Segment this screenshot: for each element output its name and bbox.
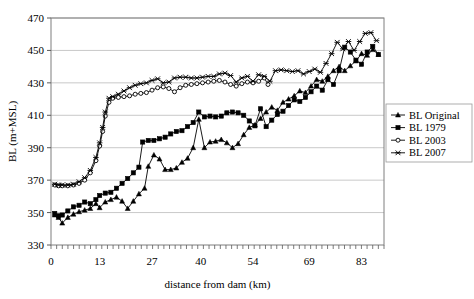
x-tick-label: 40 — [195, 255, 207, 267]
chart-container: 330350370390410430450470 0132740546983 B… — [0, 0, 474, 299]
legend-label: BL 2007 — [409, 147, 446, 158]
y-tick-label: 470 — [28, 12, 45, 24]
y-tick-label: 350 — [28, 207, 45, 219]
y-tick-label: 410 — [28, 109, 45, 121]
x-tick-label: 69 — [304, 255, 316, 267]
x-tick-label: 13 — [94, 255, 106, 267]
y-tick-label: 430 — [28, 77, 45, 89]
legend-label: BL 2003 — [409, 135, 446, 146]
x-tick-label: 83 — [356, 255, 368, 267]
chart-legend: BL OriginalBL 1979BL 2003BL 2007 — [386, 104, 472, 162]
x-tick-label: 0 — [48, 255, 54, 267]
y-axis-title: BL (m+MSL) — [6, 101, 19, 162]
y-tick-label: 450 — [28, 44, 45, 56]
y-tick-label: 370 — [28, 174, 45, 186]
line-chart: 330350370390410430450470 0132740546983 B… — [0, 0, 474, 299]
x-axis-title: distance from dam (km) — [165, 278, 271, 291]
y-tick-label: 390 — [28, 142, 45, 154]
y-tick-label: 330 — [28, 239, 45, 251]
x-tick-label: 54 — [248, 255, 260, 267]
legend-label: BL 1979 — [409, 122, 446, 133]
legend-label: BL Original — [409, 110, 460, 121]
x-tick-label: 27 — [147, 255, 159, 267]
